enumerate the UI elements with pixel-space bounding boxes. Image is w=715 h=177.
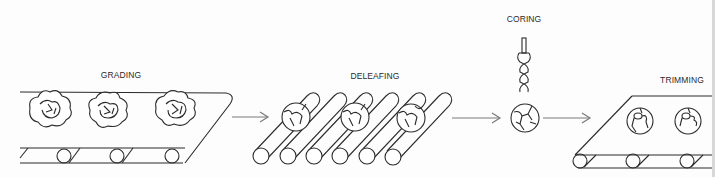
whole-cabbage-icon <box>30 91 72 127</box>
roller <box>110 149 124 163</box>
roller <box>165 149 179 163</box>
whole-cabbage-icon <box>156 91 196 126</box>
coring-stage: CORING <box>507 14 542 132</box>
deleafed-cabbage-icon <box>397 104 425 132</box>
cored-cabbage-icon <box>511 104 539 132</box>
trimming-stage: TRIMMING <box>573 75 713 168</box>
flow-arrow <box>452 113 500 123</box>
whole-cabbage-icon <box>89 92 127 127</box>
deleafing-label: DELEAFING <box>350 71 399 81</box>
cored-cabbage-icon <box>627 108 653 134</box>
flow-arrow <box>543 113 590 123</box>
flow-arrow <box>232 112 268 122</box>
deleafed-cabbage-icon <box>341 103 369 131</box>
deleafing-stage: DELEAFING <box>253 71 452 165</box>
deleafed-cabbage-icon <box>282 103 310 131</box>
cored-cabbage-icon <box>675 108 701 134</box>
trimming-label: TRIMMING <box>660 75 704 85</box>
grading-stage: GRADING <box>20 70 232 163</box>
diagram-canvas: GRADING D <box>0 0 715 177</box>
coring-label: CORING <box>507 14 542 24</box>
corer-tool-icon <box>518 38 531 92</box>
roller <box>57 149 71 163</box>
process-diagram: GRADING D <box>0 0 715 177</box>
grading-label: GRADING <box>101 70 141 80</box>
